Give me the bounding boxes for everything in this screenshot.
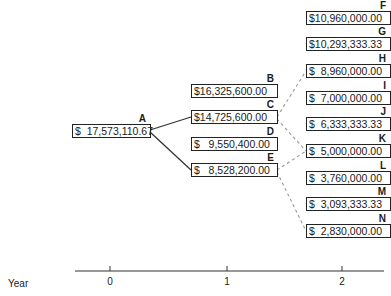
node-a-value: $ 17,573,110.67 (72, 124, 151, 138)
node-k-value: $ 5,000,000.00 (306, 144, 391, 158)
node-i-value: $ 7,000,000.00 (306, 91, 391, 105)
node-j-value: $ 6,333,333.33 (306, 117, 391, 131)
node-g-label: G (350, 27, 386, 37)
node-c-label: C (240, 100, 274, 110)
edge-a-c (150, 117, 191, 130)
node-f-label: F (350, 1, 386, 11)
edge-c-k (277, 119, 306, 151)
node-e-label: E (240, 153, 274, 163)
node-c-value: $14,725,600.00 (191, 110, 278, 124)
node-m-label: M (350, 187, 386, 197)
node-k-label: K (350, 134, 386, 144)
tick-label-1: 1 (217, 276, 237, 287)
node-l-value: $ 3,760,000.00 (306, 171, 391, 185)
tick-label-2: 2 (332, 276, 352, 287)
edge-e-n (277, 172, 306, 231)
node-l-label: L (350, 161, 386, 171)
edge-c-h (277, 71, 306, 117)
node-d-value: $ 9,550,400.00 (191, 137, 278, 151)
node-f-value: $10,960,000.00 (306, 11, 391, 25)
tick-label-0: 0 (100, 276, 120, 287)
edge-a-e (150, 132, 191, 170)
node-n-value: $ 2,830,000.00 (306, 224, 391, 238)
node-b-label: B (240, 74, 274, 84)
node-e-value: $ 8,528,200.00 (191, 163, 278, 177)
node-h-label: H (350, 54, 386, 64)
node-m-value: $ 3,093,333.33 (306, 197, 391, 211)
node-d-label: D (240, 127, 274, 137)
node-j-label: J (350, 107, 386, 117)
node-n-label: N (350, 214, 386, 224)
node-b-value: $16,325,600.00 (191, 84, 278, 98)
node-i-label: I (350, 81, 386, 91)
edge-e-k (277, 151, 306, 170)
node-a-label: A (110, 114, 146, 124)
year-axis-label: Year (8, 278, 28, 289)
node-g-value: $10,293,333.33 (306, 37, 391, 51)
node-h-value: $ 8,960,000.00 (306, 64, 391, 78)
